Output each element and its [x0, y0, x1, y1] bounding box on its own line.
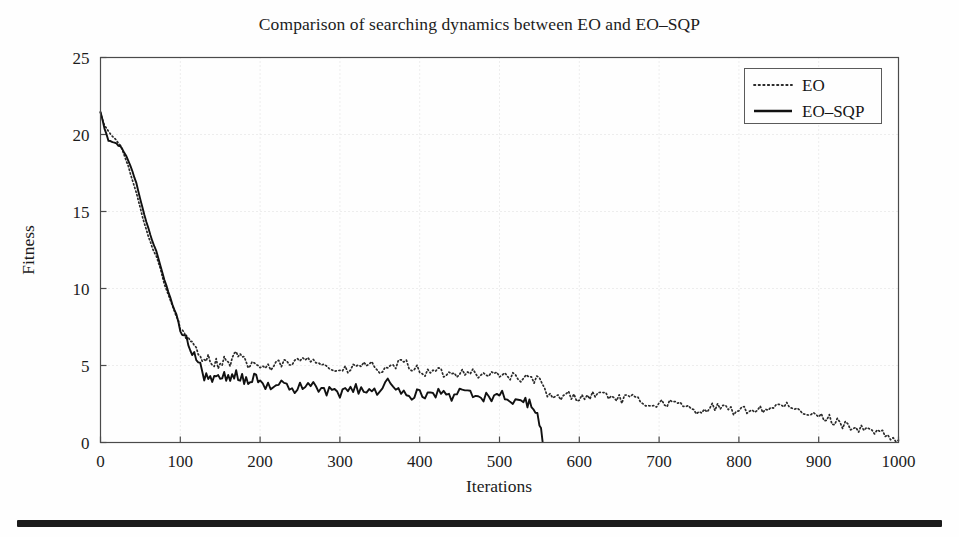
x-tick-label: 300 — [327, 452, 353, 471]
chart-svg: 01002003004005006007008009001000 0510152… — [0, 0, 959, 500]
legend-label-eo: EO — [802, 76, 825, 95]
x-tick-label: 600 — [567, 452, 593, 471]
series-line-eo-sqp — [101, 112, 543, 442]
x-tick-label: 1000 — [882, 452, 916, 471]
x-tick-label: 900 — [806, 452, 832, 471]
x-tick-label: 0 — [96, 452, 105, 471]
x-tick-label: 100 — [168, 452, 194, 471]
y-tick-label: 5 — [81, 357, 90, 376]
data-series-layer — [101, 112, 899, 442]
x-tick-label: 500 — [487, 452, 513, 471]
legend-label-eo-sqp: EO–SQP — [802, 102, 864, 121]
x-axis-ticks: 01002003004005006007008009001000 — [96, 437, 915, 471]
y-tick-label: 10 — [73, 280, 90, 299]
y-tick-label: 15 — [73, 203, 90, 222]
plot-area: 01002003004005006007008009001000 0510152… — [0, 0, 959, 500]
x-tick-label: 800 — [726, 452, 752, 471]
y-axis-ticks: 0510152025 — [73, 49, 107, 453]
x-axis-title: Iterations — [466, 476, 532, 496]
x-tick-label: 200 — [247, 452, 273, 471]
page-rule — [17, 520, 942, 527]
figure-canvas: Comparison of searching dynamics between… — [0, 0, 959, 537]
y-tick-label: 20 — [73, 126, 90, 145]
y-tick-label: 25 — [73, 49, 90, 68]
x-tick-label: 400 — [407, 452, 433, 471]
y-tick-label: 0 — [81, 434, 90, 453]
y-axis-title: Fitness — [18, 225, 38, 275]
legend[interactable]: EO EO–SQP — [745, 69, 882, 124]
x-tick-label: 700 — [646, 452, 672, 471]
